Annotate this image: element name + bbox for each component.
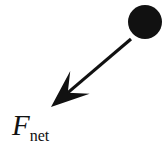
mass-circle <box>128 5 162 39</box>
force-subscript: net <box>30 127 50 144</box>
net-force-label: Fnet <box>12 111 49 140</box>
force-diagram-figure: Fnet <box>0 0 168 149</box>
force-symbol: F <box>12 109 30 141</box>
